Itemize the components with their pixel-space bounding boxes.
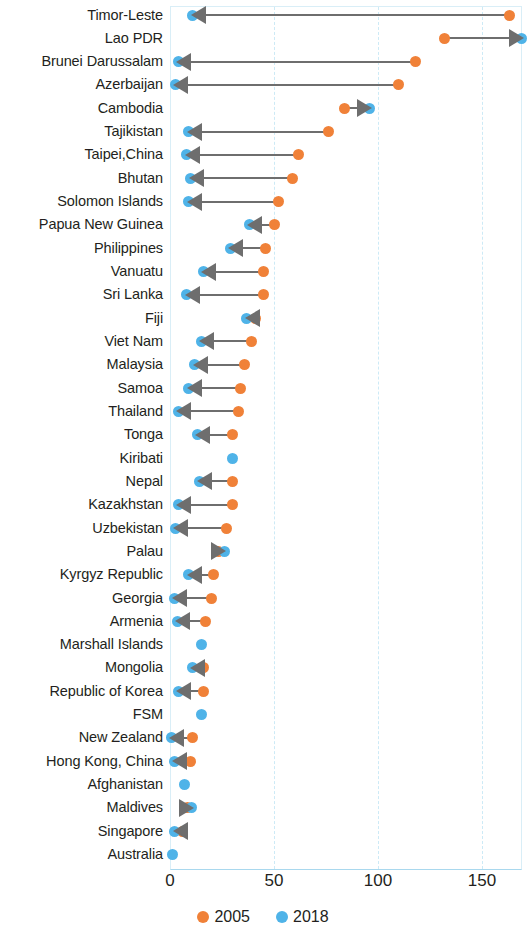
change-arrow-head	[169, 729, 184, 747]
row-track	[170, 400, 526, 423]
row-label-viet-nam: Viet Nam	[0, 330, 163, 353]
change-arrow-head	[357, 99, 372, 117]
chart-legend: 20052018	[0, 908, 526, 926]
data-point-2005[interactable]	[410, 56, 421, 67]
chart-row: Taipei,China	[0, 143, 526, 166]
row-label-thailand: Thailand	[0, 400, 163, 423]
data-point-2018[interactable]	[167, 849, 178, 860]
data-point-2005[interactable]	[206, 593, 217, 604]
change-arrow-head	[175, 612, 190, 630]
row-label-samoa: Samoa	[0, 377, 163, 400]
row-track	[170, 796, 526, 819]
row-track	[170, 213, 526, 236]
row-track	[170, 353, 526, 376]
row-track	[170, 97, 526, 120]
data-point-2005[interactable]	[504, 10, 515, 21]
data-point-2005[interactable]	[273, 196, 284, 207]
chart-row: Palau	[0, 540, 526, 563]
row-track	[170, 190, 526, 213]
change-arrow-head	[187, 566, 202, 584]
change-arrow-line	[187, 154, 299, 156]
row-track	[170, 726, 526, 749]
row-label-australia: Australia	[0, 843, 163, 866]
data-point-2005[interactable]	[208, 569, 219, 580]
data-point-2005[interactable]	[258, 289, 269, 300]
row-track	[170, 680, 526, 703]
chart-row: Lao PDR	[0, 27, 526, 50]
chart-row: Uzbekistan	[0, 517, 526, 540]
data-point-2005[interactable]	[246, 336, 257, 347]
data-point-2005[interactable]	[187, 732, 198, 743]
change-arrow-head	[176, 496, 191, 514]
data-point-2005[interactable]	[323, 126, 334, 137]
data-point-2005[interactable]	[287, 173, 298, 184]
chart-row: Viet Nam	[0, 330, 526, 353]
data-point-2005[interactable]	[239, 359, 250, 370]
change-arrow-head	[247, 216, 262, 234]
row-label-afghanistan: Afghanistan	[0, 773, 163, 796]
data-point-2005[interactable]	[439, 33, 450, 44]
chart-row: Australia	[0, 843, 526, 866]
row-label-fiji: Fiji	[0, 307, 163, 330]
data-point-2005[interactable]	[221, 523, 232, 534]
row-label-taipei-china: Taipei,China	[0, 143, 163, 166]
row-label-kyrgyz-republic: Kyrgyz Republic	[0, 563, 163, 586]
row-track	[170, 633, 526, 656]
x-tick-label-0: 0	[165, 870, 174, 892]
change-arrow-line	[193, 14, 509, 16]
chart-row: Singapore	[0, 820, 526, 843]
change-arrow-head	[201, 263, 216, 281]
chart-row: Papua New Guinea	[0, 213, 526, 236]
data-point-2005[interactable]	[393, 79, 404, 90]
row-track	[170, 843, 526, 866]
change-arrow-line	[191, 177, 293, 179]
row-track	[170, 143, 526, 166]
row-label-tajikistan: Tajikistan	[0, 120, 163, 143]
data-point-2005[interactable]	[269, 219, 280, 230]
chart-row: Afghanistan	[0, 773, 526, 796]
change-arrow-line	[189, 131, 328, 133]
row-track	[170, 750, 526, 773]
row-label-fsm: FSM	[0, 703, 163, 726]
data-point-2005[interactable]	[227, 476, 238, 487]
x-tick-label-50: 50	[265, 870, 284, 892]
data-point-2005[interactable]	[227, 429, 238, 440]
change-arrow-head	[187, 379, 202, 397]
data-point-2005[interactable]	[227, 499, 238, 510]
row-track	[170, 610, 526, 633]
chart-row: Kyrgyz Republic	[0, 563, 526, 586]
row-track	[170, 50, 526, 73]
row-label-cambodia: Cambodia	[0, 97, 163, 120]
change-arrow-head	[173, 822, 188, 840]
row-track	[170, 260, 526, 283]
row-track	[170, 377, 526, 400]
chart-row: Maldives	[0, 796, 526, 819]
chart-row: Armenia	[0, 610, 526, 633]
data-point-2018[interactable]	[227, 453, 238, 464]
data-point-2005[interactable]	[233, 406, 244, 417]
row-label-mongolia: Mongolia	[0, 656, 163, 679]
row-label-hong-kong-china: Hong Kong, China	[0, 750, 163, 773]
data-point-2005[interactable]	[293, 149, 304, 160]
data-point-2005[interactable]	[339, 103, 350, 114]
legend-label: 2018	[293, 908, 329, 926]
data-point-2018[interactable]	[196, 709, 207, 720]
data-point-2018[interactable]	[196, 639, 207, 650]
data-point-2005[interactable]	[200, 616, 211, 627]
data-point-2005[interactable]	[198, 686, 209, 697]
change-arrow-head	[176, 53, 191, 71]
data-point-2018[interactable]	[179, 779, 190, 790]
data-point-2005[interactable]	[260, 243, 271, 254]
change-arrow-head	[173, 519, 188, 537]
row-track	[170, 447, 526, 470]
row-track	[170, 587, 526, 610]
legend-item-2018[interactable]: 2018	[276, 908, 329, 926]
data-point-2005[interactable]	[235, 383, 246, 394]
change-arrow-head	[228, 239, 243, 257]
row-track	[170, 703, 526, 726]
data-point-2005[interactable]	[258, 266, 269, 277]
change-arrow-head	[191, 6, 206, 24]
legend-item-2005[interactable]: 2005	[197, 908, 250, 926]
row-track	[170, 27, 526, 50]
